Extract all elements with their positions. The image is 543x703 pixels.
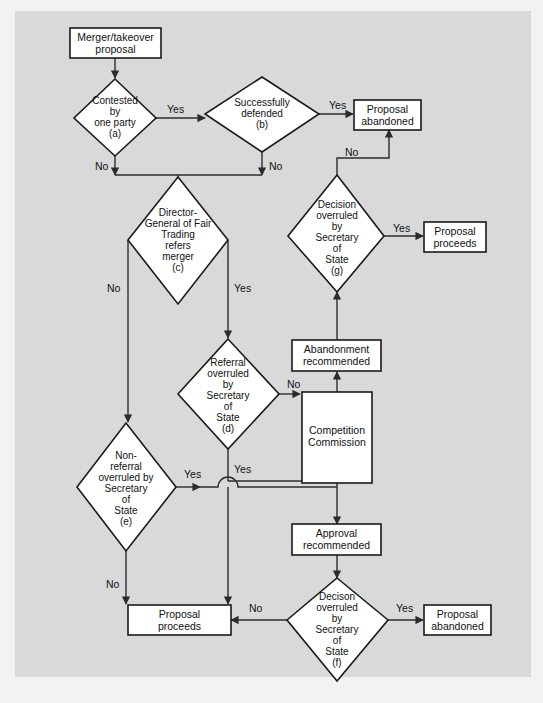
edge-label-b-no: No bbox=[269, 160, 283, 172]
node-g-line1: Decision bbox=[318, 199, 356, 210]
node-g-line4: Secretary bbox=[316, 232, 359, 243]
node-f-line4: Secretary bbox=[316, 624, 359, 635]
node-approval-line2: recommended bbox=[303, 539, 370, 551]
node-f-line7: (f) bbox=[332, 657, 341, 668]
node-commission-line1: Competition bbox=[309, 424, 365, 436]
node-abandoned-top-line2: abandoned bbox=[361, 115, 414, 127]
node-f-line3: by bbox=[332, 613, 343, 624]
flowchart-diagram: Merger/takeover proposal Contested by on… bbox=[0, 0, 543, 703]
node-f-line1: Decison bbox=[319, 591, 355, 602]
node-g-line2: overruled bbox=[316, 210, 358, 221]
node-decision-c[interactable]: Director- General of Fair Trading refers… bbox=[128, 177, 228, 304]
node-c-line5: merger bbox=[162, 251, 194, 262]
node-g-line7: (g) bbox=[331, 265, 343, 276]
edge-label-a-yes: Yes bbox=[167, 103, 184, 115]
node-proceeds-bottom-line2: proceeds bbox=[158, 620, 201, 632]
node-c-line3: Trading bbox=[161, 229, 195, 240]
node-e-line5: of bbox=[122, 494, 131, 505]
edge-label-c-no: No bbox=[107, 282, 121, 294]
node-start-line2: proposal bbox=[95, 43, 135, 55]
edge-label-g-no: No bbox=[345, 146, 359, 158]
node-start[interactable]: Merger/takeover proposal bbox=[70, 28, 161, 58]
node-f-line6: State bbox=[325, 646, 349, 657]
edge-label-b-yes: Yes bbox=[329, 99, 346, 111]
edge-label-g-yes: Yes bbox=[393, 222, 410, 234]
edge-label-f-no: No bbox=[249, 602, 263, 614]
node-d-line3: by bbox=[223, 379, 234, 390]
node-a-line2: by bbox=[110, 106, 121, 117]
node-competition-commission[interactable]: Competition Commission bbox=[302, 392, 372, 483]
node-abandoned-bottom-line1: Proposal bbox=[437, 608, 478, 620]
edge-label-d-yes: Yes bbox=[234, 463, 251, 475]
node-c-line4: refers bbox=[165, 240, 191, 251]
node-c-line6: (c) bbox=[172, 262, 184, 273]
node-proceeds-bottom-line1: Proposal bbox=[159, 608, 200, 620]
node-a-line1: Contested bbox=[92, 95, 138, 106]
node-decision-a[interactable]: Contested by one party (a) bbox=[74, 79, 156, 156]
node-proposal-abandoned-top[interactable]: Proposal abandoned bbox=[354, 100, 421, 130]
node-c-line1: Director- bbox=[159, 207, 197, 218]
node-e-line1: Non- bbox=[115, 450, 137, 461]
node-b-line1: Successfully bbox=[234, 97, 290, 108]
node-approval-line1: Approval bbox=[316, 527, 357, 539]
node-abandoned-bottom-line2: abandoned bbox=[431, 620, 484, 632]
node-d-line4: Secretary bbox=[207, 390, 250, 401]
node-abandonment-recommended[interactable]: Abandonment recommended bbox=[292, 340, 381, 371]
node-abandonment-line1: Abandonment bbox=[304, 343, 369, 355]
flowchart-page: Merger/takeover proposal Contested by on… bbox=[0, 0, 543, 703]
node-decision-g[interactable]: Decision overruled by Secretary of State… bbox=[288, 175, 384, 292]
node-d-line1: Referral bbox=[210, 357, 246, 368]
node-b-line3: (b) bbox=[256, 119, 268, 130]
node-f-line2: overruled bbox=[316, 602, 358, 613]
node-e-line4: Secretary bbox=[105, 483, 148, 494]
edge-label-e-yes: Yes bbox=[184, 468, 201, 480]
node-e-line7: (e) bbox=[120, 516, 132, 527]
node-d-line6: State bbox=[216, 412, 240, 423]
node-proposal-proceeds-bottom[interactable]: Proposal proceeds bbox=[128, 605, 231, 635]
node-proposal-abandoned-bottom[interactable]: Proposal abandoned bbox=[424, 605, 491, 635]
edge-label-a-no: No bbox=[95, 160, 109, 172]
node-f-line5: of bbox=[333, 635, 342, 646]
node-a-line4: (a) bbox=[109, 128, 121, 139]
node-abandonment-line2: recommended bbox=[303, 355, 370, 367]
node-e-line2: referral bbox=[110, 461, 142, 472]
node-proposal-proceeds-right[interactable]: Proposal proceeds bbox=[424, 222, 486, 252]
edge-label-d-no: No bbox=[287, 378, 301, 390]
node-start-line1: Merger/takeover bbox=[77, 31, 154, 43]
node-abandoned-top-line1: Proposal bbox=[367, 103, 408, 115]
node-proceeds-right-line1: Proposal bbox=[434, 225, 475, 237]
node-c-line2: General of Fair bbox=[145, 218, 212, 229]
edge-label-f-yes: Yes bbox=[396, 602, 413, 614]
node-proceeds-right-line2: proceeds bbox=[433, 237, 476, 249]
node-g-line6: State bbox=[325, 254, 349, 265]
edge-label-e-no: No bbox=[106, 578, 120, 590]
edge-label-c-yes: Yes bbox=[234, 282, 251, 294]
node-decision-e[interactable]: Non- referral overruled by Secretary of … bbox=[77, 423, 176, 551]
node-e-line6: State bbox=[114, 505, 138, 516]
node-commission-line2: Commission bbox=[308, 436, 366, 448]
node-g-line5: of bbox=[333, 243, 342, 254]
node-a-line3: one party bbox=[94, 117, 136, 128]
node-b-line2: defended bbox=[241, 108, 283, 119]
node-d-line2: overruled bbox=[207, 368, 249, 379]
node-approval-recommended[interactable]: Approval recommended bbox=[292, 524, 381, 555]
node-decision-d[interactable]: Referral overruled by Secretary of State… bbox=[178, 339, 279, 449]
node-e-line3: overruled by bbox=[98, 472, 153, 483]
node-d-line5: of bbox=[224, 401, 233, 412]
node-decision-b[interactable]: Successfully defended (b) bbox=[205, 77, 319, 152]
node-g-line3: by bbox=[332, 221, 343, 232]
node-decision-f[interactable]: Decison overruled by Secretary of State … bbox=[287, 578, 388, 681]
node-d-line7: (d) bbox=[222, 423, 234, 434]
